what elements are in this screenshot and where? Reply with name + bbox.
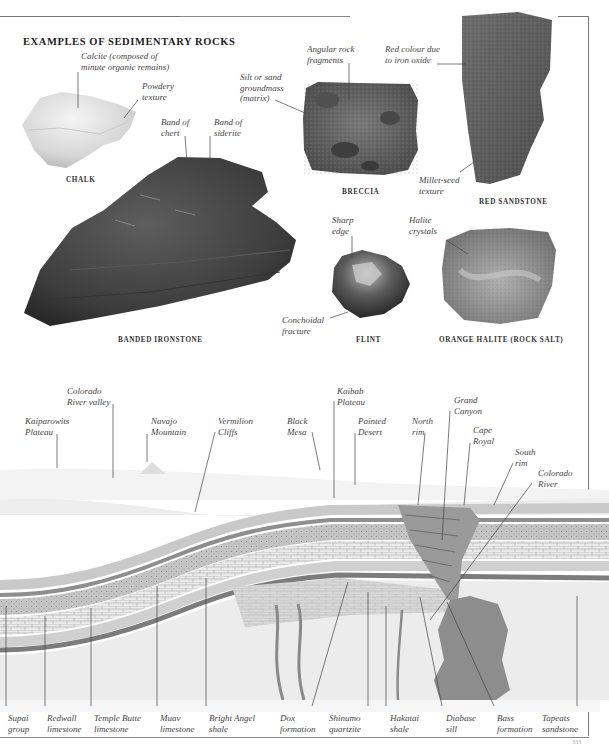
label-line: Colorado bbox=[67, 386, 110, 397]
flint-label-conchoidal: Conchoidal fracture bbox=[282, 315, 324, 336]
label-line: siderite bbox=[214, 128, 242, 139]
label-line: sill bbox=[446, 724, 476, 735]
label-line: Bass bbox=[497, 713, 533, 724]
label-line: Bright Angel bbox=[209, 713, 255, 724]
label-line: rim bbox=[515, 458, 536, 469]
label-line: Hakatai bbox=[390, 713, 419, 724]
label-line: Sharp bbox=[332, 215, 354, 226]
xs-label-black-mesa: BlackMesa bbox=[287, 416, 308, 437]
xs-label-dox-formation: Doxformation bbox=[280, 713, 316, 734]
illustrations bbox=[0, 0, 609, 746]
label-line: limestone bbox=[47, 724, 82, 735]
label-line: Diabase bbox=[446, 713, 476, 724]
flint-caption: FLINT bbox=[356, 336, 381, 344]
label-line: Mountain bbox=[151, 427, 186, 438]
label-line: Shinumo bbox=[329, 713, 361, 724]
xs-label-vermilion-cliffs: VermilionCliffs bbox=[218, 416, 253, 437]
label-line: Calcite (composed of bbox=[81, 51, 169, 62]
label-line: Black bbox=[287, 416, 308, 427]
ironstone-label-chert: Band of chert bbox=[161, 117, 189, 138]
xs-label-bright-angel-shale: Bright Angelshale bbox=[209, 713, 255, 734]
label-line: quartzite bbox=[329, 724, 361, 735]
xs-label-north-rim: Northrim bbox=[412, 416, 433, 437]
label-line: Dox bbox=[280, 713, 316, 724]
label-line: Silt or sand bbox=[240, 72, 284, 83]
xs-label-cape-royal: CapeRoyal bbox=[473, 425, 494, 446]
label-line: sandstone bbox=[542, 724, 578, 735]
xs-label-muav-limestone: Muavlimestone bbox=[160, 713, 195, 734]
xs-label-redwall-limestone: Redwalllimestone bbox=[47, 713, 82, 734]
red-sandstone-specimen bbox=[462, 12, 552, 184]
flint-specimen bbox=[332, 250, 410, 318]
breccia-label-matrix: Silt or sand groundmass (matrix) bbox=[240, 72, 284, 104]
chalk-caption: CHALK bbox=[66, 176, 95, 184]
page-title: EXAMPLES OF SEDIMENTARY ROCKS bbox=[23, 36, 235, 47]
label-line: Plateau bbox=[25, 427, 69, 438]
label-line: Conchoidal bbox=[282, 315, 324, 326]
label-line: Kaiparowits bbox=[25, 416, 69, 427]
banded-ironstone-specimen bbox=[24, 157, 296, 326]
label-line: texture bbox=[142, 92, 174, 103]
page-number: 333 bbox=[572, 739, 581, 745]
xs-label-south-rim: Southrim bbox=[515, 447, 536, 468]
xs-label-colorado-river: ColoradoRiver bbox=[538, 468, 573, 489]
label-line: limestone bbox=[94, 724, 141, 735]
label-line: Desert bbox=[358, 427, 386, 438]
label-line: Kaibab bbox=[337, 386, 365, 397]
label-line: Cape bbox=[473, 425, 494, 436]
label-line: shale bbox=[390, 724, 419, 735]
label-line: to iron oxide bbox=[385, 55, 440, 66]
label-line: Royal bbox=[473, 436, 494, 447]
label-line: Colorado bbox=[538, 468, 573, 479]
label-line: Muav bbox=[160, 713, 195, 724]
xs-label-kaiparowits-plateau: KaiparowitsPlateau bbox=[25, 416, 69, 437]
label-line: Plateau bbox=[337, 397, 365, 408]
label-line: Mesa bbox=[287, 427, 308, 438]
label-line: Navajo bbox=[151, 416, 186, 427]
flint-label-sharp-edge: Sharp edge bbox=[332, 215, 354, 236]
xs-label-navajo-mountain: NavajoMountain bbox=[151, 416, 186, 437]
label-line: Vermilion bbox=[218, 416, 253, 427]
label-line: Redwall bbox=[47, 713, 82, 724]
label-line: South bbox=[515, 447, 536, 458]
label-line: River valley bbox=[67, 397, 110, 408]
xs-label-bass-formation: Bassformation bbox=[497, 713, 533, 734]
label-line: formation bbox=[280, 724, 316, 735]
xs-label-hakatai-shale: Hakataishale bbox=[390, 713, 419, 734]
breccia-caption: BRECCIA bbox=[342, 188, 379, 196]
breccia-specimen bbox=[303, 82, 419, 175]
label-line: fracture bbox=[282, 326, 324, 337]
halite-label-crystals: Halite crystals bbox=[409, 215, 437, 236]
label-line: Temple Butte bbox=[94, 713, 141, 724]
halite-caption: ORANGE HALITE (ROCK SALT) bbox=[439, 336, 563, 344]
label-line: texture bbox=[419, 186, 459, 197]
xs-label-diabase-sill: Diabasesill bbox=[446, 713, 476, 734]
xs-label-kaibab-plateau: KaibabPlateau bbox=[337, 386, 365, 407]
label-line: group bbox=[8, 724, 29, 735]
label-line: Canyon bbox=[454, 406, 482, 417]
label-line: Cliffs bbox=[218, 427, 253, 438]
orange-halite-specimen bbox=[442, 228, 556, 324]
label-line: North bbox=[412, 416, 433, 427]
label-line: groundmass bbox=[240, 83, 284, 94]
label-line: chert bbox=[161, 128, 189, 139]
label-line: Band of bbox=[214, 117, 242, 128]
label-line: formation bbox=[497, 724, 533, 735]
xs-label-painted-desert: PaintedDesert bbox=[358, 416, 386, 437]
label-line: crystals bbox=[409, 226, 437, 237]
label-line: limestone bbox=[160, 724, 195, 735]
chalk-label-powdery: Powdery texture bbox=[142, 81, 174, 102]
sandstone-label-millet-seed: Millet-seed texture bbox=[419, 175, 459, 196]
label-line: fragments bbox=[307, 55, 354, 66]
label-line: Angular rock bbox=[307, 44, 354, 55]
xs-label-shinumo-quartzite: Shinumoquartzite bbox=[329, 713, 361, 734]
chalk-label-calcite: Calcite (composed of minute organic rema… bbox=[81, 51, 169, 72]
xs-label-grand-canyon: GrandCanyon bbox=[454, 395, 482, 416]
xs-label-supai-group: Supaigroup bbox=[8, 713, 29, 734]
label-line: River bbox=[538, 479, 573, 490]
xs-label-tapeats-sandstone: Tapeatssandstone bbox=[542, 713, 578, 734]
label-line: Painted bbox=[358, 416, 386, 427]
xs-label-colorado-river-valley: ColoradoRiver valley bbox=[67, 386, 110, 407]
ironstone-caption: BANDED IRONSTONE bbox=[118, 336, 203, 344]
label-line: rim bbox=[412, 427, 433, 438]
